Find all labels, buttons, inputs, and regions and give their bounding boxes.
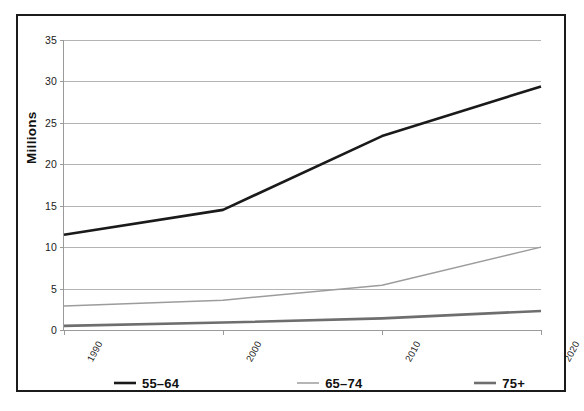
x-tick-mark-2010 [382,330,383,335]
series-line-65-74 [64,247,541,306]
y-tick-label-0: 0 [51,324,57,336]
legend-label-75+: 75+ [502,376,525,391]
x-axis-group: 1990200020102020 [64,330,541,376]
series-group [64,40,541,330]
legend-item-55-64[interactable]: 55–64 [114,376,179,391]
x-tick-label-1990: 1990 [85,339,105,364]
y-tick-label-10: 10 [45,241,57,253]
y-tick-label-15: 15 [45,200,57,212]
x-tick-label-2000: 2000 [244,339,264,364]
legend-swatch-75+ [474,379,496,387]
x-tick-mark-2020 [541,330,542,335]
x-tick-mark-2000 [223,330,224,335]
y-tick-label-20: 20 [45,158,57,170]
legend-label-55-64: 55–64 [142,376,179,391]
series-line-55-64 [64,86,541,234]
chart-legend: 55–6465–7475+ [64,374,541,392]
x-tick-label-2010: 2010 [403,339,423,364]
y-tick-label-30: 30 [45,75,57,87]
legend-label-65-74: 65–74 [325,376,362,391]
y-tick-label-35: 35 [45,34,57,46]
y-axis-title: Millions [24,111,39,164]
series-line-75+ [64,311,541,326]
legend-swatch-65-74 [297,379,319,387]
chart-figure: Millions 05101520253035 1990200020102020… [16,14,566,392]
legend-swatch-55-64 [114,379,136,387]
x-tick-mark-1990 [64,330,65,335]
x-tick-label-2020: 2020 [562,339,582,364]
y-tick-label-5: 5 [51,283,57,295]
legend-item-75+[interactable]: 75+ [474,376,525,391]
y-tick-label-25: 25 [45,117,57,129]
plot-area: 05101520253035 [64,40,541,330]
legend-item-65-74[interactable]: 65–74 [297,376,362,391]
